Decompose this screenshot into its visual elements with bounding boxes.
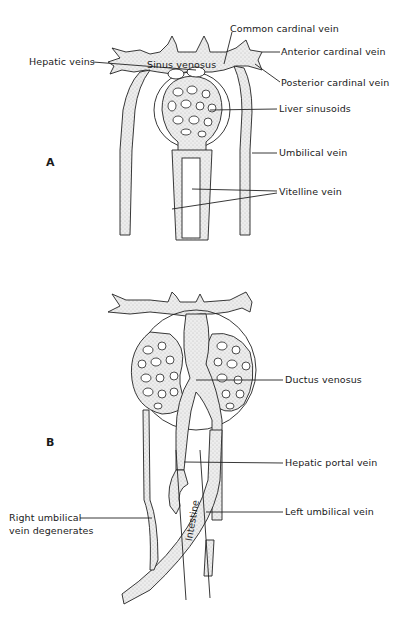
left-umbilical-vein-a	[120, 70, 150, 235]
panel-b-drawing	[108, 292, 256, 604]
label-vitelline-vein: Vitelline vein	[279, 186, 342, 197]
label-right-umbilical-line2: vein degenerates	[9, 525, 94, 536]
right-umbilical-vein-a	[234, 66, 252, 235]
label-hepatic-portal-vein: Hepatic portal vein	[285, 457, 377, 468]
label-anterior-cardinal-vein: Anterior cardinal vein	[281, 46, 386, 57]
label-right-umbilical-line1: Right umbilical	[9, 512, 81, 523]
lower-vessel	[204, 540, 214, 576]
label-ductus-venosus: Ductus venosus	[285, 374, 362, 385]
label-liver-sinusoids: Liver sinusoids	[279, 103, 351, 114]
label-left-umbilical-vein: Left umbilical vein	[285, 506, 374, 517]
label-hepatic-veins: Hepatic veins	[29, 56, 95, 67]
panel-a-letter: A	[46, 156, 55, 169]
right-umbilical-vein-b	[143, 410, 158, 570]
label-sinus-venosus: Sinus venosus	[147, 59, 216, 70]
panel-b-letter: B	[46, 436, 54, 449]
label-umbilical-vein: Umbilical vein	[279, 147, 347, 158]
label-posterior-cardinal-vein: Posterior cardinal vein	[281, 77, 389, 88]
left-umbilical-vein-b	[122, 430, 222, 604]
label-common-cardinal-vein: Common cardinal vein	[230, 23, 339, 34]
